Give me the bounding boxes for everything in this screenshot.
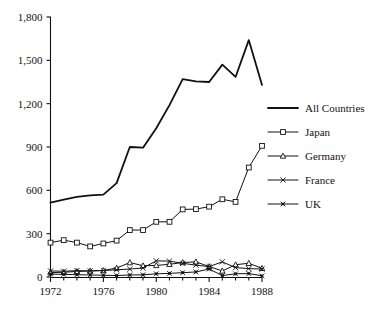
marker-open-square	[114, 238, 119, 243]
x-tick-label: 1976	[92, 285, 115, 297]
marker-open-square	[75, 240, 80, 245]
y-tick-label: 1,500	[18, 54, 43, 66]
marker-open-square	[207, 204, 212, 209]
x-tick-label: 1972	[40, 285, 62, 297]
legend-label: All Countries	[305, 102, 365, 114]
marker-open-square	[220, 197, 225, 202]
y-tick-label: 1,200	[18, 98, 43, 110]
marker-open-square	[48, 240, 53, 245]
y-tick-label: 0	[37, 271, 43, 283]
legend-label: Japan	[305, 126, 331, 138]
marker-open-square	[61, 238, 66, 243]
marker-open-square	[233, 199, 238, 204]
marker-open-square	[101, 241, 106, 246]
marker-open-square	[127, 228, 132, 233]
marker-open-square	[88, 244, 93, 249]
marker-open-square	[141, 228, 146, 233]
y-tick-label: 300	[26, 228, 43, 240]
marker-open-square	[246, 165, 251, 170]
marker-open-square	[281, 130, 286, 135]
y-tick-label: 600	[26, 184, 43, 196]
marker-open-square	[180, 207, 185, 212]
marker-open-square	[154, 219, 159, 224]
y-tick-label: 1,800	[18, 11, 43, 23]
line-chart: 03006009001,2001,5001,800 19721976198019…	[0, 0, 383, 319]
y-tick-label: 900	[26, 141, 43, 153]
x-tick-label: 1988	[251, 285, 274, 297]
legend-label: France	[305, 174, 335, 186]
marker-open-square	[260, 143, 265, 148]
x-tick-label: 1980	[145, 285, 168, 297]
x-tick-label: 1984	[198, 285, 221, 297]
legend-label: Germany	[305, 150, 346, 162]
marker-open-square	[167, 219, 172, 224]
legend-label: UK	[305, 198, 321, 210]
marker-open-square	[194, 207, 199, 212]
